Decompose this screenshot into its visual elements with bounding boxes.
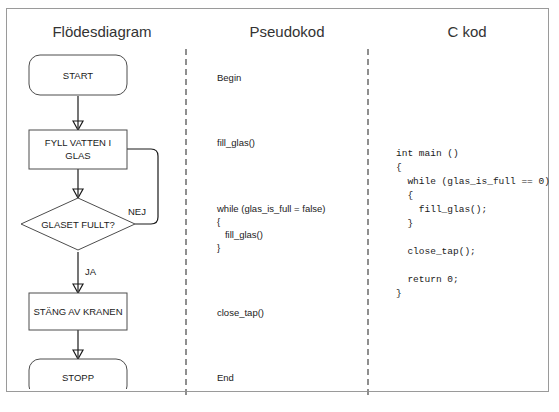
connector-start-to-fill bbox=[73, 96, 83, 130]
flow-node-fill-glass-label-line2: GLAS bbox=[65, 150, 90, 161]
pseudocode-column: Begin fill_glas() while (glas_is_full = … bbox=[217, 49, 362, 395]
column-title-flowchart: Flödesdiagram bbox=[27, 23, 177, 40]
pseudocode-line: Begin bbox=[217, 71, 241, 84]
column-separator-right bbox=[367, 49, 369, 395]
pseudocode-line: { bbox=[217, 215, 220, 228]
diagram-frame: Flödesdiagram Pseudokod C kod bbox=[6, 8, 549, 392]
column-title-pseudocode: Pseudokod bbox=[212, 23, 362, 40]
flowchart-canvas: START FYLL VATTEN I GLAS GLASET FULLT? N… bbox=[15, 49, 180, 389]
flow-node-start-label: START bbox=[63, 70, 93, 81]
pseudocode-line: fill_glas() bbox=[217, 228, 263, 241]
edge-label-no: NEJ bbox=[128, 206, 146, 217]
edge-label-yes: JA bbox=[85, 266, 97, 277]
flow-node-start[interactable]: START bbox=[29, 55, 127, 95]
flow-node-close-tap[interactable]: STÄNG AV KRANEN bbox=[29, 293, 127, 330]
flow-node-stop[interactable]: STOPP bbox=[29, 359, 127, 389]
flow-node-close-tap-label: STÄNG AV KRANEN bbox=[33, 306, 122, 317]
ccode-block: int main () { while (glas_is_full == 0) … bbox=[396, 147, 554, 301]
column-title-ccode: C kod bbox=[392, 23, 542, 40]
flow-node-fill-glass-label-line1: FYLL VATTEN I bbox=[45, 137, 111, 148]
flow-node-decision-glass-full[interactable]: GLASET FULLT? bbox=[21, 198, 135, 250]
flow-node-decision-label: GLASET FULLT? bbox=[41, 219, 115, 230]
flow-node-fill-glass[interactable]: FYLL VATTEN I GLAS bbox=[29, 130, 127, 169]
pseudocode-line: close_tap() bbox=[217, 306, 264, 319]
connector-decision-yes-to-close bbox=[73, 252, 83, 293]
pseudocode-line: } bbox=[217, 241, 220, 254]
pseudocode-line: fill_glas() bbox=[217, 136, 255, 149]
connector-close-to-stop bbox=[73, 330, 83, 359]
connector-fill-to-decision bbox=[73, 169, 83, 198]
column-separator-left bbox=[185, 49, 187, 395]
ccode-column: int main () { while (glas_is_full == 0) … bbox=[396, 147, 554, 301]
flow-node-stop-label: STOPP bbox=[62, 372, 94, 383]
pseudocode-line: while (glas_is_full = false) bbox=[217, 202, 326, 215]
pseudocode-line: End bbox=[217, 371, 234, 384]
screenshot-root: Flödesdiagram Pseudokod C kod bbox=[0, 0, 559, 412]
